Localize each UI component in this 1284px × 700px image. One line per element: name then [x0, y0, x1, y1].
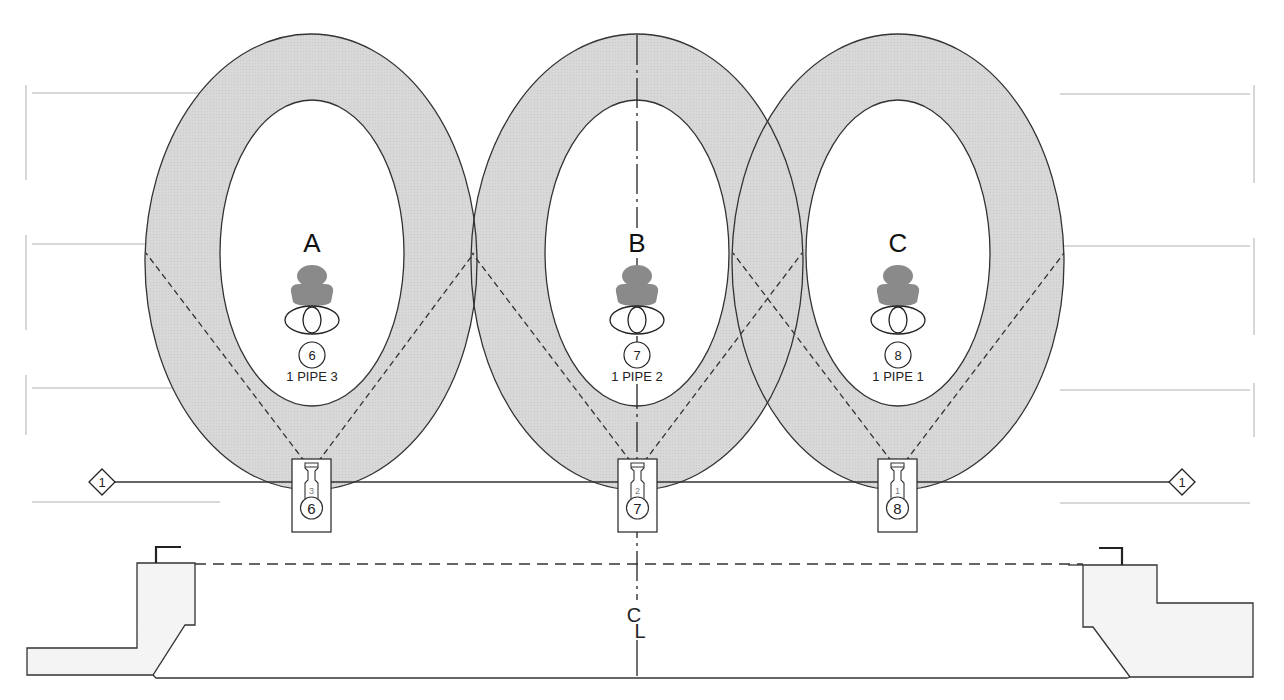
- stage-floor-edge: [153, 675, 1130, 678]
- unit-number: 3: [309, 486, 314, 496]
- unit-number: 2: [635, 486, 640, 496]
- pipe-tag-left: 1: [89, 469, 115, 495]
- left-proscenium-wall: [27, 563, 195, 675]
- area-letter: C: [889, 228, 908, 258]
- right-guide-lines: [1060, 85, 1254, 503]
- unit-channel: 8: [893, 500, 901, 517]
- area-letter: A: [303, 228, 321, 258]
- unit-channel: 6: [307, 500, 315, 517]
- pipe-label: 1 PIPE 1: [872, 369, 923, 384]
- channel-number: 6: [308, 348, 315, 363]
- channel-number: 8: [894, 348, 901, 363]
- right-batten-bracket: [1099, 548, 1122, 565]
- pipe-tag-left-number: 1: [98, 475, 105, 490]
- pipe-tag-right: 1: [1169, 469, 1195, 495]
- centerline-l: L: [634, 620, 645, 642]
- unit-channel: 7: [633, 500, 641, 517]
- right-proscenium-wall: [1083, 565, 1253, 677]
- unit-number: 1: [895, 486, 900, 496]
- centerline-symbol: C L: [623, 602, 651, 642]
- inner-areas: [220, 100, 990, 406]
- pipe-label: 1 PIPE 3: [286, 369, 337, 384]
- pipe-label: 1 PIPE 2: [611, 369, 662, 384]
- pipe-tag-right-number: 1: [1178, 475, 1185, 490]
- lighting-unit-b[interactable]: 2 7: [618, 459, 657, 532]
- lighting-unit-a[interactable]: 3 6: [292, 459, 331, 532]
- channel-number: 7: [633, 348, 640, 363]
- left-batten-bracket: [156, 547, 181, 563]
- area-letter: B: [628, 228, 645, 258]
- lighting-plot-canvas: 1 1 A 6 1 PIPE 3 B 7 1 PI: [0, 0, 1284, 700]
- eye-symbol-icon: [610, 306, 664, 334]
- lighting-unit-c[interactable]: 1 8: [878, 459, 917, 532]
